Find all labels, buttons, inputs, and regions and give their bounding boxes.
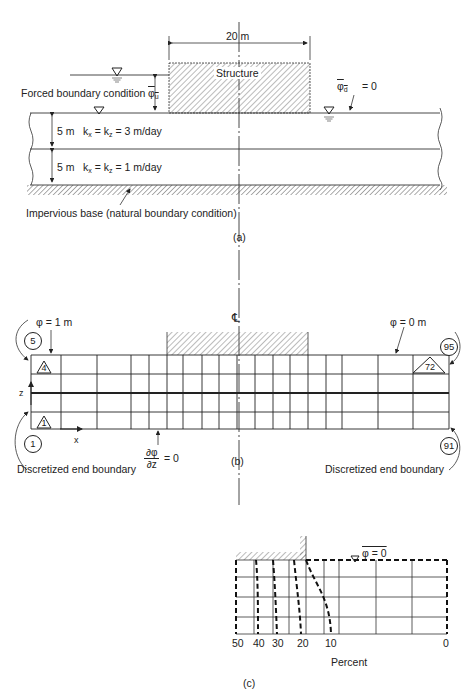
layer1-thickness: 5 m xyxy=(57,125,75,137)
upstream-boundary-label: Forced boundary condition xyxy=(21,87,145,99)
right-head-label: φ = 0 m xyxy=(390,316,426,328)
upstream-head-symbol: φu xyxy=(148,87,159,103)
tick-0: 0 xyxy=(443,637,449,649)
flux-condition: ∂φ∂z xyxy=(144,447,159,470)
centerline-symbol: ℄ xyxy=(232,312,240,324)
caption-b: (b) xyxy=(231,455,244,467)
panel-c-chart xyxy=(236,536,447,634)
tick-20: 20 xyxy=(297,637,309,649)
panel-b-mesh xyxy=(15,320,460,470)
tick-30: 30 xyxy=(272,637,284,649)
tick-40: 40 xyxy=(253,637,265,649)
element-4: 4 xyxy=(39,363,49,373)
node-5: 5 xyxy=(24,332,42,350)
caption-c: (c) xyxy=(243,677,255,689)
left-head-label: φ = 1 m xyxy=(36,316,72,328)
impervious-base-label: Impervious base (natural boundary condit… xyxy=(26,207,237,219)
layer2-permeability: kx = kz = 1 m/day xyxy=(83,161,162,177)
right-end-boundary-label: Discretized end boundary xyxy=(325,463,444,475)
width-dimension-label: 20 m xyxy=(226,30,249,42)
percent-axis-title: Percent xyxy=(331,656,367,668)
flux-condition-value: = 0 xyxy=(164,452,179,464)
element-1: 1 xyxy=(39,418,49,428)
layer2-thickness: 5 m xyxy=(57,161,75,173)
tick-50: 50 xyxy=(232,637,244,649)
node-91: 91 xyxy=(440,437,458,455)
tick-10: 10 xyxy=(325,637,337,649)
element-72: 72 xyxy=(421,362,439,372)
x-axis-label: x xyxy=(74,434,79,446)
left-end-boundary-label: Discretized end boundary xyxy=(17,463,136,475)
z-axis-label: z xyxy=(19,387,24,399)
node-1: 1 xyxy=(24,435,42,453)
downstream-head-value: = 0 xyxy=(362,80,377,92)
finite-element-figure xyxy=(0,0,475,700)
mesh-grid xyxy=(31,355,449,429)
layer1-permeability: kx = kz = 3 m/day xyxy=(83,125,162,141)
structure-block xyxy=(167,332,308,355)
downstream-head-symbol: φd xyxy=(337,80,348,96)
caption-a: (a) xyxy=(233,231,246,243)
impervious-base xyxy=(27,185,447,195)
structure-label: Structure xyxy=(214,67,261,79)
surface-head-label: φ = 0 xyxy=(362,547,387,559)
node-95: 95 xyxy=(440,338,458,356)
